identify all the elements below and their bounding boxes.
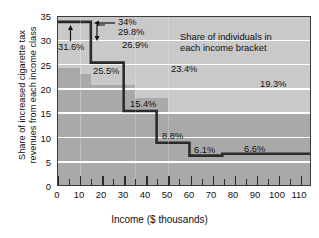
xtick-20 xyxy=(102,176,103,185)
xtick-85 xyxy=(246,179,247,185)
y-tick-label-20: 20 xyxy=(33,84,51,95)
xtick-10 xyxy=(80,176,81,185)
xtick-95 xyxy=(268,179,269,185)
xtick-90 xyxy=(257,176,258,185)
xtick-70 xyxy=(213,176,214,185)
data-label-23-4: 23.4% xyxy=(171,64,197,74)
xtick-110 xyxy=(301,176,302,185)
y-tick-label-15: 15 xyxy=(33,108,51,119)
y-tick-label-30: 30 xyxy=(33,35,51,46)
data-label-6-1: 6.1% xyxy=(194,145,215,155)
data-label-6-6: 6.6% xyxy=(244,144,265,154)
y-tick-label-5: 5 xyxy=(33,157,51,168)
xtick-35 xyxy=(135,179,136,185)
xtick-45 xyxy=(157,179,158,185)
xtick-5 xyxy=(69,179,70,185)
xtick-80 xyxy=(235,176,236,185)
data-label-15-4: 15.4% xyxy=(130,99,156,109)
xtick-25 xyxy=(113,179,114,185)
arrow-to-31-6-percent xyxy=(66,25,75,42)
xtick-100 xyxy=(279,176,280,185)
xtick-60 xyxy=(191,176,192,185)
chart-figure: Share of increased cigarette tax revenue… xyxy=(0,0,319,238)
data-label-29-8: 29.8% xyxy=(118,27,144,37)
x-tick-label-110: 110 xyxy=(286,189,312,200)
y-tick-label-35: 35 xyxy=(33,11,51,22)
xtick-40 xyxy=(146,176,147,185)
data-label-25-5: 25.5% xyxy=(93,66,119,76)
x-axis-title: Income ($ thousands) xyxy=(0,214,319,225)
xtick-75 xyxy=(224,179,225,185)
xtick-65 xyxy=(202,179,203,185)
individuals-note: Share of individuals in each income brac… xyxy=(180,31,272,53)
plot-area: 34% 29.8% 31.6% 26.9% 25.5% 23.4% 15.4% … xyxy=(57,16,311,186)
data-label-31-6: 31.6% xyxy=(58,42,84,52)
y-tick-label-25: 25 xyxy=(33,60,51,71)
arrow-to-29-8-percent xyxy=(92,24,106,41)
xtick-55 xyxy=(179,179,180,185)
data-label-8-8: 8.8% xyxy=(162,131,183,141)
vline-50 xyxy=(168,17,169,186)
xtick-50 xyxy=(168,176,169,185)
xtick-15 xyxy=(91,179,92,185)
xtick-30 xyxy=(124,176,125,185)
data-label-26-9: 26.9% xyxy=(122,40,148,50)
xtick-105 xyxy=(290,179,291,185)
xtick-0 xyxy=(58,176,59,185)
data-label-34: 34% xyxy=(118,17,137,27)
y-tick-label-10: 10 xyxy=(33,133,51,144)
data-label-19-3: 19.3% xyxy=(260,79,286,89)
